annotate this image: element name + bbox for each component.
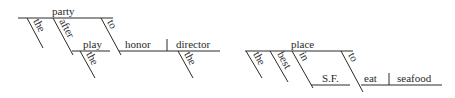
word-best: best — [275, 49, 294, 70]
word-sf: S.F. — [322, 72, 339, 84]
word-the-3: the — [182, 49, 199, 67]
word-honor: honor — [125, 38, 151, 50]
word-to-1: to — [105, 17, 120, 31]
word-to-2: to — [346, 50, 361, 64]
word-party: party — [52, 5, 75, 17]
word-the-2: the — [84, 49, 101, 67]
diagram-2: place the best in S.F. to eat seafood — [245, 38, 442, 92]
word-seafood: seafood — [397, 72, 432, 84]
word-place: place — [291, 38, 314, 50]
word-eat: eat — [364, 72, 377, 84]
diagram-1: party the after play the to honor direct… — [18, 5, 220, 78]
sentence-diagrams: party the after play the to honor direct… — [0, 0, 455, 98]
word-play: play — [83, 38, 102, 50]
word-after: after — [57, 16, 77, 40]
